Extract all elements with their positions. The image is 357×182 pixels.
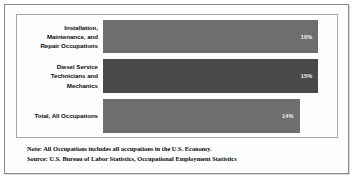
bar-row-installation-maintenance-repair: Installation, Maintenance, and Repair Oc… (17, 20, 337, 53)
bar-track: 14% (103, 99, 337, 133)
bar-label-total-all-occupations: Total, All Occupations (17, 111, 103, 120)
bar-label-diesel-service-technicians: Diesel Service Technicians and Mechanics (17, 62, 103, 90)
bar-track: 16% (103, 20, 337, 53)
bar-diesel-service-technicians: 15% (103, 59, 318, 93)
bar-row-diesel-service-technicians: Diesel Service Technicians and Mechanics… (17, 59, 337, 93)
bar-label-line: Mechanics (17, 81, 98, 90)
bar-label-line: Maintenance, and (17, 32, 98, 41)
bar-track: 15% (103, 59, 337, 93)
bar-label-line: Total, All Occupations (17, 111, 98, 120)
bar-label-line: Repair Occupations (17, 41, 98, 50)
bar-label-line: Diesel Service (17, 62, 98, 71)
bar-total-all-occupations: 14% (103, 99, 300, 133)
bar-label-installation-maintenance-repair: Installation, Maintenance, and Repair Oc… (17, 23, 103, 51)
bar-row-total-all-occupations: Total, All Occupations 14% (17, 99, 337, 133)
chart-plot-area: Installation, Maintenance, and Repair Oc… (16, 14, 338, 138)
bar-value-diesel-service-technicians: 15% (301, 73, 313, 79)
bar-label-line: Technicians and (17, 71, 98, 80)
bar-installation-maintenance-repair: 16% (103, 20, 318, 53)
bar-value-total-all-occupations: 14% (282, 113, 294, 119)
footnote-note: Note: All Occupations includes all occup… (27, 144, 327, 154)
bar-label-line: Installation, (17, 23, 98, 32)
bar-value-installation-maintenance-repair: 16% (301, 34, 313, 40)
footnote-source: Source: U.S. Bureau of Labor Statistics,… (27, 154, 327, 164)
chart-figure: Installation, Maintenance, and Repair Oc… (4, 4, 349, 174)
chart-footnotes: Note: All Occupations includes all occup… (27, 144, 327, 165)
